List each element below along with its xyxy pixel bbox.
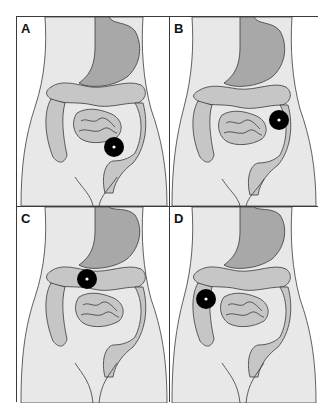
abdomen-illustration: [17, 207, 169, 403]
panel-label: A: [21, 21, 30, 36]
panel-c: C: [17, 207, 169, 403]
anatomy-figure: A B C: [16, 16, 318, 402]
panel-a: A: [17, 17, 169, 206]
abdomen-illustration: [170, 17, 319, 206]
panel-label: D: [174, 211, 183, 226]
panel-label: B: [174, 21, 183, 36]
panel-b: B: [170, 17, 319, 206]
panel-d: D: [170, 207, 319, 403]
panel-label: C: [21, 211, 30, 226]
vertical-divider: [169, 17, 170, 401]
horizontal-divider: [17, 206, 317, 207]
abdomen-illustration: [17, 17, 169, 206]
abdomen-illustration: [170, 207, 319, 403]
